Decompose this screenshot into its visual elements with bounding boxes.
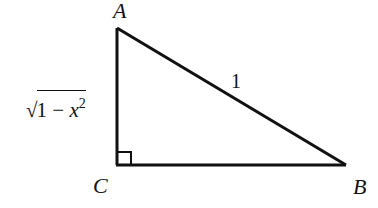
radicand-exponent: 2	[79, 96, 86, 111]
hypotenuse-length-label: 1	[231, 71, 241, 91]
right-angle-marker-icon	[117, 152, 131, 165]
triangle-diagram: A B C 1 √1 − x2	[0, 0, 378, 208]
radicand-variable: x	[69, 98, 78, 122]
vertex-label-c: C	[93, 175, 108, 197]
radicand-constant: 1 −	[37, 98, 70, 122]
side-ab-hypotenuse	[117, 28, 346, 165]
vertex-label-b: B	[353, 176, 366, 198]
vertex-label-a: A	[113, 0, 126, 22]
radicand: 1 − x2	[37, 90, 86, 121]
side-ac-length-label: √1 − x2	[26, 90, 86, 121]
